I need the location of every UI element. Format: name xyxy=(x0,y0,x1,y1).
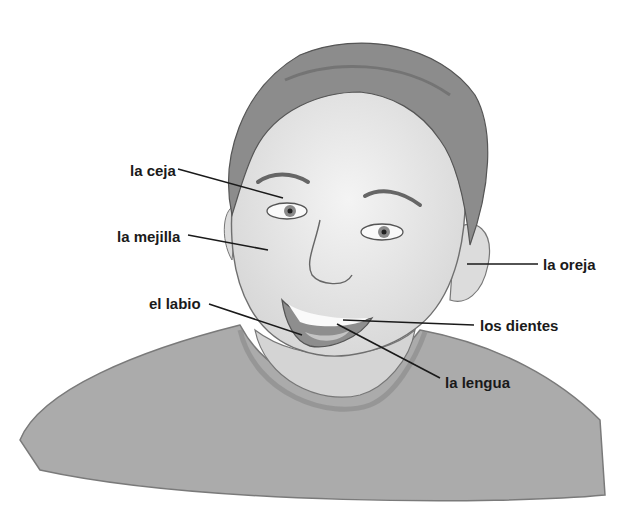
label-los-dientes: los dientes xyxy=(480,318,558,333)
label-la-ceja: la ceja xyxy=(130,163,176,178)
label-la-lengua: la lengua xyxy=(445,375,510,390)
face-illustration xyxy=(0,0,634,526)
label-la-oreja: la oreja xyxy=(543,257,596,272)
label-el-labio: el labio xyxy=(149,296,201,311)
label-la-mejilla: la mejilla xyxy=(117,229,180,244)
